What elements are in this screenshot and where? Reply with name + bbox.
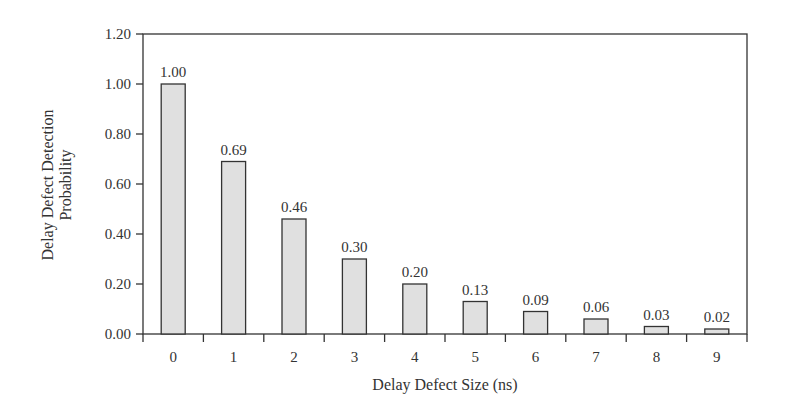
x-tick-label: 9 [713, 349, 721, 365]
y-tick-label: 0.00 [105, 326, 131, 342]
y-tick-label: 0.20 [105, 276, 131, 292]
bar-value-label: 0.09 [522, 292, 548, 308]
x-tick-label: 4 [411, 349, 419, 365]
x-tick-label: 1 [230, 349, 238, 365]
x-tick-label: 5 [471, 349, 479, 365]
bar [161, 84, 185, 334]
bar [222, 162, 246, 335]
y-axis-title-line2: Probability [57, 149, 75, 220]
y-tick-label: 0.40 [105, 226, 131, 242]
bar [584, 319, 608, 334]
bar [463, 302, 487, 335]
y-tick-label: 1.00 [105, 76, 131, 92]
bar-value-label: 0.20 [402, 264, 428, 280]
bar-value-label: 0.06 [583, 299, 610, 315]
x-tick-label: 0 [169, 349, 177, 365]
x-tick-label: 7 [592, 349, 600, 365]
x-tick-label: 6 [532, 349, 540, 365]
y-tick-label: 1.20 [105, 26, 131, 42]
bar [524, 312, 548, 335]
bar-value-label: 0.46 [281, 199, 308, 215]
axis-titles: Delay Defect Size (ns) Delay Defect Dete… [39, 109, 518, 394]
bar-value-label: 0.02 [704, 309, 730, 325]
bar [342, 259, 366, 334]
x-tick-label: 2 [290, 349, 298, 365]
y-axis: 0.000.200.400.600.801.001.20 [105, 26, 143, 342]
bar [282, 219, 306, 334]
x-axis: 0123456789 [143, 334, 747, 365]
y-tick-label: 0.60 [105, 176, 131, 192]
bars: 1.000.690.460.300.200.130.090.060.030.02 [160, 64, 730, 334]
x-axis-title: Delay Defect Size (ns) [372, 376, 517, 394]
bar-value-label: 0.69 [220, 142, 246, 158]
y-axis-title-line1: Delay Defect Detection [39, 109, 57, 260]
x-tick-label: 8 [653, 349, 661, 365]
bar [644, 327, 668, 335]
x-tick-label: 3 [351, 349, 359, 365]
bar-value-label: 0.30 [341, 239, 367, 255]
bar-value-label: 0.03 [643, 307, 669, 323]
bar-value-label: 0.13 [462, 282, 488, 298]
bar [403, 284, 427, 334]
bar-value-label: 1.00 [160, 64, 186, 80]
y-tick-label: 0.80 [105, 126, 131, 142]
bar-chart: 0.000.200.400.600.801.001.20 0123456789 … [0, 0, 785, 418]
bar [705, 329, 729, 334]
